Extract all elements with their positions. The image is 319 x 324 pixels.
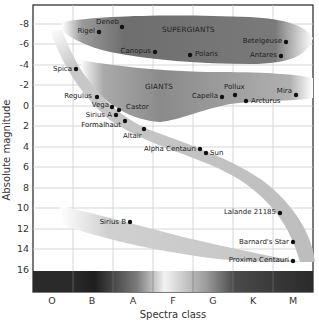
hr-diagram: SUPERGIANTS GIANTS -8 -6 -4 -2 0 2 4 6 8… <box>0 0 319 324</box>
star-sirius-a <box>114 113 118 117</box>
svg-text:Alpha Centauri: Alpha Centauri <box>144 145 196 153</box>
star-sirius-b <box>128 220 132 224</box>
star-sun <box>204 151 208 155</box>
svg-text:K: K <box>250 295 257 306</box>
svg-text:Vega: Vega <box>92 101 109 109</box>
svg-text:Sirius B: Sirius B <box>100 218 127 226</box>
star-arcturus <box>244 99 248 103</box>
svg-text:Capella: Capella <box>192 92 218 100</box>
star-proxima-centauri <box>291 259 295 263</box>
svg-text:14: 14 <box>17 243 29 254</box>
star-antares <box>279 54 283 58</box>
star-deneb <box>120 25 124 29</box>
star-polaris <box>188 53 192 57</box>
star-vega <box>110 105 114 109</box>
svg-text:Canopus: Canopus <box>121 47 152 55</box>
star-barnards-star <box>291 240 295 244</box>
star-alpha-centauri <box>198 147 202 151</box>
svg-text:-6: -6 <box>20 38 29 49</box>
supergiants-label: SUPERGIANTS <box>162 25 215 34</box>
star-spica <box>74 67 78 71</box>
svg-text:Formalhaut: Formalhaut <box>81 121 121 129</box>
svg-text:Deneb: Deneb <box>96 18 119 26</box>
star-canopus <box>153 50 157 54</box>
star-castor <box>117 108 121 112</box>
svg-text:Spica: Spica <box>53 65 72 73</box>
star-pollux <box>233 93 237 97</box>
svg-text:Rigel: Rigel <box>77 27 95 35</box>
y-axis-ticks: -8 -6 -4 -2 0 2 4 6 8 10 12 14 16 <box>17 18 29 275</box>
svg-text:Regulus: Regulus <box>64 92 92 100</box>
svg-text:Arcturus: Arcturus <box>251 97 281 105</box>
svg-text:6: 6 <box>23 161 29 172</box>
svg-text:B: B <box>89 295 96 306</box>
star-betelgeuse <box>284 40 288 44</box>
svg-text:Polaris: Polaris <box>195 50 218 58</box>
star-capella <box>220 95 224 99</box>
giants-label: GIANTS <box>145 82 173 91</box>
svg-text:-4: -4 <box>20 59 29 70</box>
svg-text:Betelgeuse: Betelgeuse <box>243 37 282 45</box>
svg-text:O: O <box>48 295 55 306</box>
svg-text:Sirius A: Sirius A <box>86 111 113 119</box>
star-regulus <box>95 95 99 99</box>
y-axis-title: Absolute magnitude <box>1 100 12 201</box>
star-mira <box>294 93 298 97</box>
svg-text:8: 8 <box>23 182 29 193</box>
svg-text:Altair: Altair <box>123 132 142 140</box>
svg-text:-2: -2 <box>20 79 29 90</box>
svg-text:12: 12 <box>17 223 29 234</box>
svg-text:-8: -8 <box>20 18 29 29</box>
svg-text:Mira: Mira <box>277 87 292 95</box>
svg-text:16: 16 <box>17 264 29 275</box>
svg-text:Barnard's Star: Barnard's Star <box>239 238 289 246</box>
svg-text:0: 0 <box>23 100 29 111</box>
x-axis-ticks: O B A F G K M <box>48 295 297 306</box>
svg-text:A: A <box>130 295 137 306</box>
star-lalande-21185 <box>278 211 282 215</box>
svg-text:4: 4 <box>23 141 29 152</box>
svg-text:Sun: Sun <box>210 149 223 157</box>
svg-text:Pollux: Pollux <box>224 83 245 91</box>
svg-text:G: G <box>209 295 216 306</box>
x-axis-title: Spectra class <box>140 309 207 320</box>
svg-text:Castor: Castor <box>126 103 149 111</box>
star-rigel <box>97 30 101 34</box>
star-formalhaut <box>123 119 127 123</box>
svg-text:Proxima Centauri: Proxima Centauri <box>229 256 289 264</box>
svg-text:10: 10 <box>17 202 29 213</box>
spectral-color-band <box>33 271 313 292</box>
svg-text:F: F <box>170 295 175 306</box>
svg-text:Lalande 21185: Lalande 21185 <box>224 208 276 216</box>
svg-text:2: 2 <box>23 120 29 131</box>
svg-text:Antares: Antares <box>250 51 277 59</box>
star-altair <box>142 127 146 131</box>
svg-text:M: M <box>289 295 297 306</box>
